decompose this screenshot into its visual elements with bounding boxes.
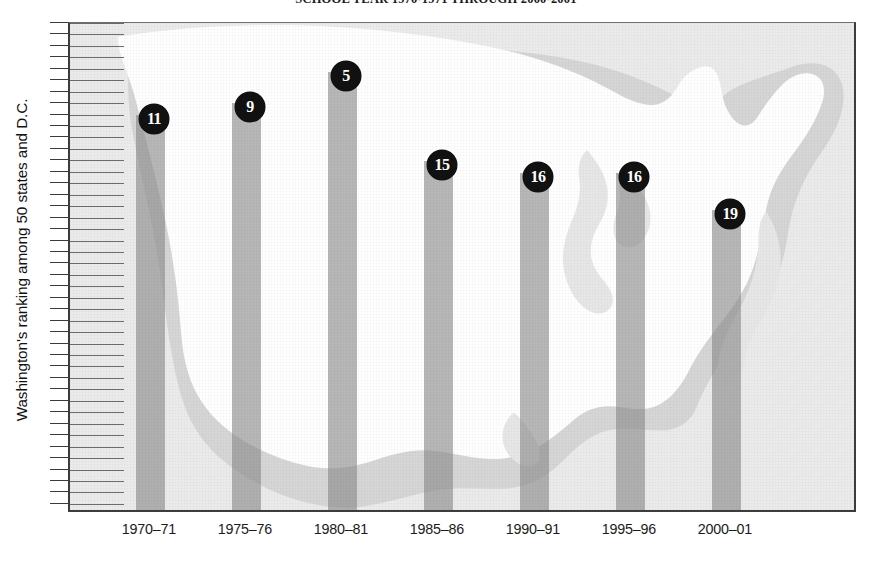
bar-1985-86 (424, 161, 453, 510)
x-tick-label-3: 1985–86 (392, 521, 482, 537)
value-badge-1990-91: 16 (523, 162, 553, 192)
value-badge-1980-81: 5 (331, 61, 361, 91)
value-badge-1985-86: 15 (427, 150, 457, 180)
x-tick-label-4: 1990–91 (488, 521, 578, 537)
chart-figure: SCHOOL YEAR 1970-1971 THROUGH 2000-2001 … (0, 0, 872, 565)
x-tick-label-0: 1970–71 (104, 521, 194, 537)
plot-area (68, 22, 856, 512)
value-badge-1970-71: 11 (139, 104, 169, 134)
bar-2000-01 (712, 210, 741, 510)
value-badge-2000-01: 19 (715, 199, 745, 229)
rank-gridlines (70, 23, 124, 510)
bar-1980-81 (328, 72, 357, 510)
x-tick-label-2: 1980–81 (296, 521, 386, 537)
bar-1970-71 (136, 115, 165, 510)
y-axis-title-text: Washington's ranking among 50 states and… (13, 99, 31, 422)
x-tick-label-1: 1975–76 (200, 521, 290, 537)
value-badge-1975-76: 9 (235, 92, 265, 122)
x-tick-label-6: 2000–01 (680, 521, 770, 537)
bar-1990-91 (520, 173, 549, 510)
chart-title: SCHOOL YEAR 1970-1971 THROUGH 2000-2001 (0, 0, 872, 4)
y-axis-tick-marks (50, 22, 68, 512)
value-badge-1995-96: 16 (619, 162, 649, 192)
x-tick-label-5: 1995–96 (584, 521, 674, 537)
bar-1975-76 (232, 103, 261, 510)
bar-1995-96 (616, 173, 645, 510)
y-axis-title: Washington's ranking among 50 states and… (0, 0, 44, 520)
